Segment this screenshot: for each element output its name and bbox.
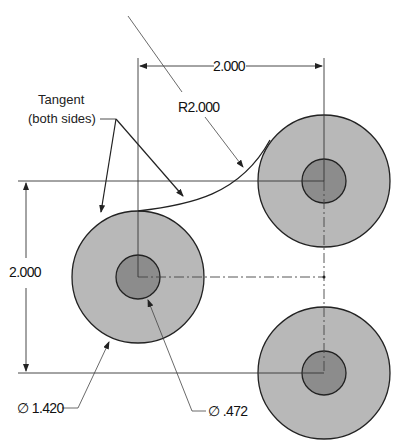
outer-diameter-leader <box>62 342 109 408</box>
vertical-dim-label: 2.000 <box>9 264 42 280</box>
engineering-drawing: 2.000 2.000 R2.000 Tangent (both sides) … <box>0 0 400 447</box>
radius-leader-top <box>128 16 182 92</box>
radius-leader <box>205 117 243 167</box>
inner-diameter-label: ∅ .472 <box>208 403 248 419</box>
outer-diameter-label: ∅ 1.420 <box>17 400 65 416</box>
tangent-note-line2: (both sides) <box>28 111 96 126</box>
tangent-note-line1: Tangent <box>38 92 85 107</box>
tangent-leaders <box>100 119 183 212</box>
horizontal-dim-label: 2.000 <box>213 58 246 74</box>
radius-label: R2.000 <box>178 99 220 115</box>
tangent-arc <box>138 140 270 211</box>
